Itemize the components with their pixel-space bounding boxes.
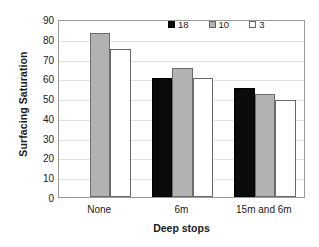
y-tick-label: 30 bbox=[24, 133, 54, 144]
y-tick-label: 40 bbox=[24, 113, 54, 124]
x-tick-label: 6m bbox=[175, 204, 189, 215]
y-tick-label: 0 bbox=[24, 193, 54, 204]
bar-15m-and-6m-series-3 bbox=[275, 100, 296, 197]
bar-6m-series-10 bbox=[172, 68, 193, 197]
y-tick-label: 90 bbox=[24, 15, 54, 26]
y-tick-label: 80 bbox=[24, 34, 54, 45]
bar-chart: Surfacing Saturation 0102030405060708090… bbox=[0, 0, 319, 247]
legend-swatch-icon bbox=[209, 21, 216, 28]
legend-item-18: 18 bbox=[168, 19, 189, 30]
legend-swatch-icon bbox=[168, 21, 175, 28]
legend: 18103 bbox=[168, 19, 264, 30]
x-tick-label: 15m and 6m bbox=[236, 204, 292, 215]
y-tick-label: 20 bbox=[24, 153, 54, 164]
y-tick-label: 60 bbox=[24, 74, 54, 85]
x-axis-title: Deep stops bbox=[58, 222, 305, 234]
legend-label: 3 bbox=[259, 19, 264, 30]
bar-none-series-10 bbox=[90, 33, 111, 197]
y-tick-label: 10 bbox=[24, 173, 54, 184]
bar-15m-and-6m-series-10 bbox=[255, 94, 276, 197]
x-tick-label: None bbox=[87, 204, 111, 215]
y-tick-label: 50 bbox=[24, 94, 54, 105]
bar-6m-series-3 bbox=[193, 78, 214, 197]
bar-15m-and-6m-series-18 bbox=[234, 88, 255, 197]
plot-area bbox=[58, 20, 305, 198]
legend-swatch-icon bbox=[249, 21, 256, 28]
legend-item-3: 3 bbox=[249, 19, 264, 30]
legend-item-10: 10 bbox=[209, 19, 230, 30]
legend-label: 10 bbox=[219, 19, 230, 30]
bars-layer bbox=[59, 21, 304, 197]
y-axis-tick-labels: 0102030405060708090 bbox=[24, 20, 54, 198]
x-axis-tick-labels: None6m15m and 6m bbox=[58, 201, 305, 217]
y-tick-label: 70 bbox=[24, 54, 54, 65]
bar-none-series-3 bbox=[110, 49, 131, 197]
bar-6m-series-18 bbox=[152, 78, 173, 197]
legend-label: 18 bbox=[178, 19, 189, 30]
